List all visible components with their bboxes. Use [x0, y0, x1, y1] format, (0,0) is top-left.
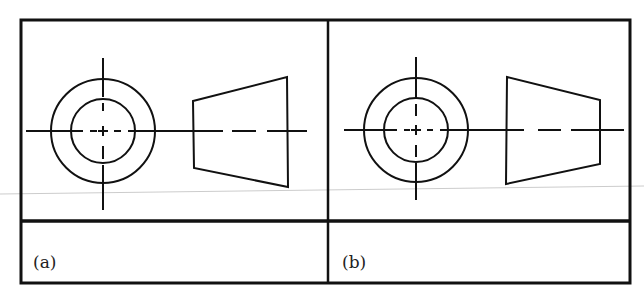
scan-artifact-line: [0, 186, 644, 194]
outer-frame: [21, 20, 630, 283]
panel-a-drawing: [26, 58, 307, 210]
panel-a-label: (a): [33, 252, 56, 272]
panel-b-label: (b): [342, 252, 366, 272]
panel-b-drawing: [344, 57, 624, 200]
orthographic-views-diagram: [0, 0, 644, 301]
